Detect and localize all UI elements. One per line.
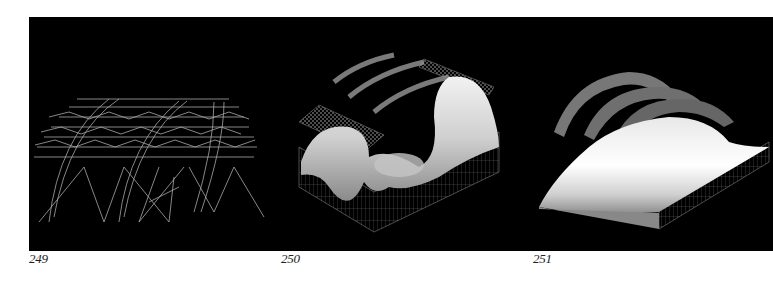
figure-249-space-frame: [29, 17, 279, 251]
image-plate: [29, 17, 773, 251]
figure-caption-250: 250: [281, 251, 300, 267]
figure-caption-249: 249: [29, 251, 48, 267]
figure-caption-251: 251: [533, 251, 552, 267]
